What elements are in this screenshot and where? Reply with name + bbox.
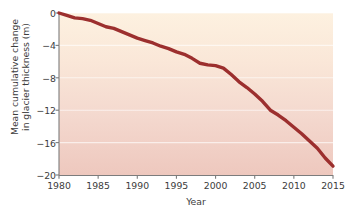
- plot-background: [59, 13, 333, 175]
